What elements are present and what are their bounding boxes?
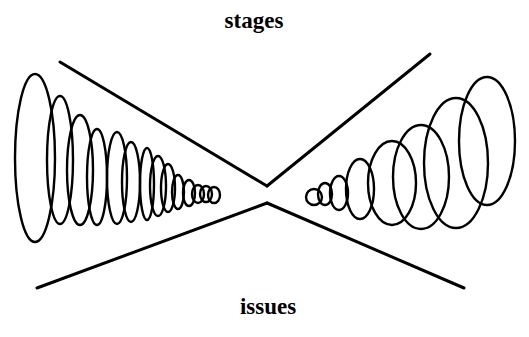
left-spiral-ellipse-14	[208, 187, 220, 203]
hourglass-spiral-diagram	[0, 0, 529, 337]
right-spiral-ellipse-7	[424, 98, 488, 228]
left-spiral-ellipse-4	[87, 129, 107, 225]
line-top-right	[267, 54, 430, 186]
diagram-canvas: stages issues	[0, 0, 529, 337]
issues-label: issues	[168, 295, 368, 318]
right-spiral-ellipse-6	[393, 125, 449, 229]
left-spiral-converging	[15, 74, 220, 242]
right-spiral-diverging	[306, 77, 515, 229]
left-spiral-ellipse-6	[122, 142, 140, 222]
funnel-lines	[37, 54, 464, 288]
left-spiral-ellipse-1	[15, 74, 55, 242]
